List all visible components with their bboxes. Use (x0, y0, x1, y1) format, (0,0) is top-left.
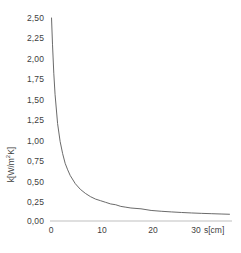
chart-container: 2,50 2,25 2,00 1,75 1,50 1,25 1,00 0,75 … (0, 0, 241, 253)
data-series-line (52, 18, 230, 214)
plot-area (0, 0, 241, 253)
